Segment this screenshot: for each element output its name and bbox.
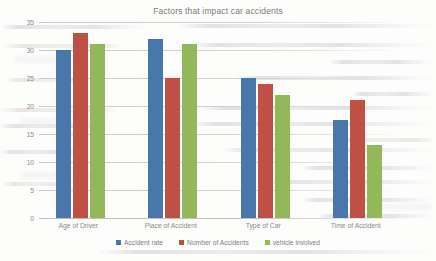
x-axis-category-label: Age of Driver: [32, 222, 125, 230]
gridline: [42, 22, 412, 23]
legend-swatch-icon: [265, 240, 270, 245]
legend-label: Accident rate: [124, 239, 163, 246]
bar: [258, 84, 273, 218]
legend-label: Number of Accidents: [187, 239, 249, 246]
bar: [56, 50, 71, 218]
gridline: [42, 218, 412, 219]
y-axis-tick-mark: [39, 190, 42, 191]
x-axis-category-label: Time of Accident: [310, 222, 403, 230]
y-axis-tick-mark: [39, 78, 42, 79]
y-axis-tick-mark: [39, 134, 42, 135]
x-axis-category-label: Place of Accident: [125, 222, 218, 230]
y-axis-tick-label: 30: [8, 47, 34, 54]
y-axis-tick-label: 5: [8, 187, 34, 194]
legend-item[interactable]: vehicle involved: [265, 239, 320, 246]
chart-legend: Accident rateNumber of Accidentsvehicle …: [0, 239, 436, 246]
plot-area: 05101520253035Age of DriverPlace of Acci…: [42, 22, 412, 218]
y-axis-tick-mark: [39, 50, 42, 51]
legend-swatch-icon: [116, 240, 121, 245]
y-axis-tick-mark: [39, 162, 42, 163]
bar: [182, 44, 197, 218]
bar: [275, 95, 290, 218]
bar: [148, 39, 163, 218]
legend-swatch-icon: [179, 240, 184, 245]
y-axis-tick-mark: [39, 218, 42, 219]
bar: [241, 78, 256, 218]
y-axis-tick-label: 35: [8, 19, 34, 26]
y-axis-tick-label: 15: [8, 131, 34, 138]
y-axis-tick-label: 25: [8, 75, 34, 82]
x-axis-category-label: Type of Car: [217, 222, 310, 230]
chart-screenshot: Factors that impact car accidents 051015…: [0, 0, 436, 261]
legend-item[interactable]: Number of Accidents: [179, 239, 249, 246]
legend-label: vehicle involved: [273, 239, 320, 246]
chart-title: Factors that impact car accidents: [0, 6, 436, 16]
bar: [350, 100, 365, 218]
bar: [367, 145, 382, 218]
y-axis-tick-label: 10: [8, 159, 34, 166]
bar: [73, 33, 88, 218]
bar: [333, 120, 348, 218]
y-axis-tick-mark: [39, 22, 42, 23]
chart: Factors that impact car accidents 051015…: [0, 0, 436, 261]
bar: [165, 78, 180, 218]
y-axis-tick-label: 20: [8, 103, 34, 110]
legend-item[interactable]: Accident rate: [116, 239, 163, 246]
y-axis-tick-mark: [39, 106, 42, 107]
y-axis-tick-label: 0: [8, 215, 34, 222]
bar: [90, 44, 105, 218]
